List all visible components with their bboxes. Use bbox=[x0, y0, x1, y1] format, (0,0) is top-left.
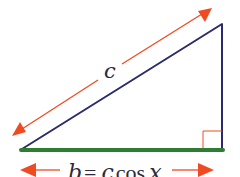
triangle-diagram: c b=ccosx bbox=[0, 0, 240, 177]
arrowhead-left-icon bbox=[20, 163, 36, 177]
arrowhead-left-icon bbox=[12, 122, 26, 136]
hypotenuse bbox=[22, 24, 222, 149]
hypotenuse-label: c bbox=[104, 59, 116, 83]
right-angle-marker bbox=[203, 131, 222, 149]
arrowhead-right-icon bbox=[198, 163, 214, 177]
base-label: b=ccosx bbox=[68, 160, 162, 177]
